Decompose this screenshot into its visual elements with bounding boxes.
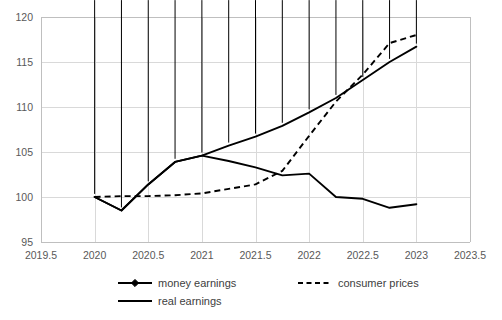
- y-axis-tick-label: 120: [15, 11, 33, 23]
- x-axis-tick-labels: 2019.520202020.520212021.520222022.52023…: [25, 249, 486, 261]
- x-axis-tick-label: 2023.5: [454, 249, 486, 261]
- x-axis-tick-label: 2022.5: [347, 249, 379, 261]
- chart-background: [0, 0, 502, 320]
- x-axis-tick-label: 2021.5: [239, 249, 271, 261]
- chart-container: 95100105110115120 2019.520202020.5202120…: [0, 0, 502, 320]
- y-axis-tick-label: 110: [16, 101, 33, 113]
- y-axis-tick-label: 95: [21, 236, 33, 248]
- line-chart: 95100105110115120 2019.520202020.5202120…: [0, 0, 502, 320]
- x-axis-tick-label: 2021: [190, 249, 214, 261]
- y-axis-tick-label: 115: [16, 56, 33, 68]
- y-axis-tick-label: 100: [15, 191, 33, 203]
- x-axis-tick-label: 2020.5: [132, 249, 164, 261]
- x-axis-tick-label: 2023: [405, 249, 429, 261]
- legend-label: consumer prices: [338, 277, 419, 289]
- x-axis-tick-label: 2020: [83, 249, 107, 261]
- x-axis-tick-label: 2022: [297, 249, 321, 261]
- legend-label: money earnings: [158, 277, 237, 289]
- y-axis-tick-label: 105: [15, 146, 33, 158]
- legend-label: real earnings: [158, 295, 222, 307]
- x-axis-tick-label: 2019.5: [25, 249, 57, 261]
